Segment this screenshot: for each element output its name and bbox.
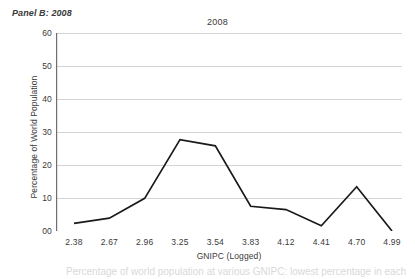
x-axis-title: GNIPC (Logged) — [56, 251, 402, 261]
gridlines — [56, 34, 402, 232]
x-tick-label: 3.83 — [242, 237, 259, 247]
figure-panel-b-2008: Panel B: 2008 2008 Percentage of World P… — [0, 0, 415, 279]
x-axis-tick-labels: 2.382.672.963.253.543.834.124.414.704.99 — [56, 237, 402, 251]
x-tick-label: 4.70 — [348, 237, 365, 247]
x-tick-label: 2.67 — [101, 237, 118, 247]
x-tick-label: 3.54 — [207, 237, 224, 247]
y-tick-label: 50 — [26, 62, 52, 71]
y-axis-tick-labels: 00102030405060 — [26, 33, 52, 231]
y-tick-label: 40 — [26, 95, 52, 104]
chart-title-text: 2008 — [207, 17, 228, 27]
y-tick-label: 20 — [26, 161, 52, 170]
plot-area — [56, 33, 402, 231]
x-tick-label: 4.99 — [383, 237, 400, 247]
y-tick-label: 10 — [26, 194, 52, 203]
y-tick-label: 60 — [26, 29, 52, 38]
line-chart-svg — [56, 33, 402, 231]
x-tick-label: 4.12 — [277, 237, 294, 247]
x-tick-label: 3.25 — [171, 237, 188, 247]
x-tick-label: 2.96 — [136, 237, 153, 247]
x-tick-label: 4.41 — [313, 237, 330, 247]
chart-title: 2008 — [0, 17, 415, 27]
x-tick-label: 2.38 — [65, 237, 82, 247]
y-tick-label: 30 — [26, 128, 52, 137]
data-series-line — [74, 140, 392, 231]
y-tick-label: 00 — [26, 227, 52, 236]
page-caption-fragment: Percentage of world population at variou… — [66, 266, 406, 278]
